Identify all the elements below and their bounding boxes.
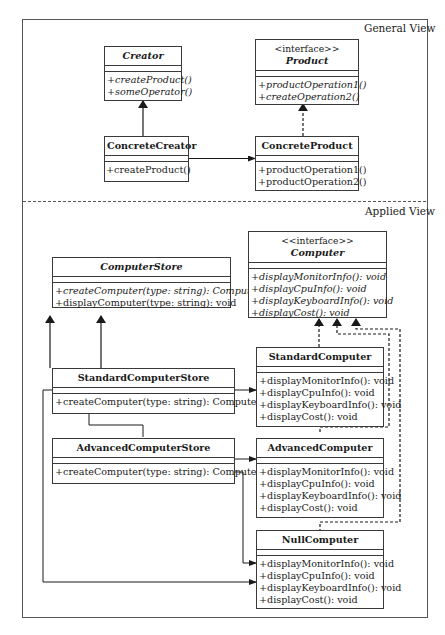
class-name: StandardComputer [259, 351, 381, 363]
general-view-label: General View [364, 22, 436, 34]
operation: +displayCost(): void [259, 502, 381, 514]
class-computer-store: ComputerStore +createComputer(type: stri… [52, 257, 231, 308]
stereotype: <interface>> [258, 43, 356, 55]
association-arrow [235, 472, 256, 563]
class-computer-interface: <<interface>> Computer +displayMonitorIn… [248, 231, 387, 318]
operation: +displayCost(): void [259, 411, 381, 423]
stereotype: <<interface>> [251, 235, 384, 247]
operation: +productOperation1() [258, 79, 356, 91]
uml-diagram: General View Applied View Creator +creat… [0, 0, 445, 635]
class-concrete-product: ConcreteProduct +productOperation1() +pr… [255, 136, 359, 191]
operations-section: +displayMonitorInfo(): void +displayCpuI… [249, 269, 386, 321]
class-name: ConcreteCreator [107, 140, 186, 152]
class-name: Computer [251, 247, 384, 259]
operations-section: +displayMonitorInfo(): void +displayCpuI… [257, 373, 383, 425]
operation: +displayMonitorInfo(): void [251, 271, 384, 283]
operations-section: +productOperation1() +productOperation2(… [256, 162, 358, 190]
store-connector [89, 413, 143, 437]
operations-section: +createProduct() [105, 162, 188, 178]
applied-view-label: Applied View [365, 205, 435, 217]
class-null-computer: NullComputer +displayMonitorInfo(): void… [256, 530, 384, 609]
association-arrow [43, 390, 256, 582]
class-advanced-computer-store: AdvancedComputerStore +createComputer(ty… [52, 438, 235, 484]
class-name: AdvancedComputerStore [55, 442, 232, 454]
operation: +displayCpuInfo(): void [259, 478, 381, 490]
operation: +displayCost(): void [259, 594, 381, 606]
class-standard-computer: StandardComputer +displayMonitorInfo(): … [256, 347, 384, 427]
operation: +displayMonitorInfo(): void [259, 466, 381, 478]
class-standard-computer-store: StandardComputerStore +createComputer(ty… [52, 368, 235, 414]
class-product: <interface>> Product +productOperation1(… [255, 39, 359, 105]
class-creator: Creator +createProduct() +someOperator() [104, 46, 182, 101]
operation: +displayCpuInfo(): void [259, 387, 381, 399]
operations-section: +createProduct() +someOperator() [105, 72, 181, 100]
operation: +createOperation2() [258, 91, 356, 103]
operation: +someOperator() [107, 86, 179, 98]
operation: +productOperation2() [258, 176, 356, 188]
operation: +displayKeyboardInfo(): void [251, 295, 384, 307]
operations-section: +createComputer(type: string): Computer* [53, 394, 234, 410]
operation: +displayComputer(type: string): void [55, 297, 228, 309]
operations-section: +createComputer(type: string): Computer* [53, 464, 234, 480]
class-name: NullComputer [259, 534, 381, 546]
class-name: Product [258, 55, 356, 67]
class-name: ConcreteProduct [258, 140, 356, 152]
operation: +displayMonitorInfo(): void [259, 375, 381, 387]
operation: +displayCpuInfo(): void [251, 283, 384, 295]
operations-section: +displayMonitorInfo(): void +displayCpuI… [257, 556, 383, 608]
class-name: Creator [107, 50, 179, 62]
class-name: AdvancedComputer [259, 442, 381, 454]
operation: +displayKeyboardInfo(): void [259, 582, 381, 594]
operation: +createComputer(type: string): Computer* [55, 466, 232, 478]
operation: +displayCost(): void [251, 307, 384, 319]
operations-section: +displayMonitorInfo(): void +displayCpuI… [257, 464, 383, 516]
operations-section: +productOperation1() +createOperation2() [256, 77, 358, 105]
class-name: ComputerStore [55, 261, 228, 273]
operation: +displayKeyboardInfo(): void [259, 490, 381, 502]
operation: +displayKeyboardInfo(): void [259, 399, 381, 411]
operation: +productOperation1() [258, 164, 356, 176]
class-concrete-creator: ConcreteCreator +createProduct() [104, 136, 189, 182]
operation: +createProduct() [106, 164, 186, 176]
operation: +displayCpuInfo(): void [259, 570, 381, 582]
operation: +createComputer(type: string): Computer* [55, 396, 232, 408]
operation: +displayMonitorInfo(): void [259, 558, 381, 570]
operation: +createComputer(type: string): Computer* [55, 285, 228, 297]
class-name: StandardComputerStore [55, 372, 232, 384]
class-advanced-computer: AdvancedComputer +displayMonitorInfo(): … [256, 438, 384, 518]
operations-section: +createComputer(type: string): Computer*… [53, 283, 230, 311]
operation: +createProduct() [107, 74, 179, 86]
